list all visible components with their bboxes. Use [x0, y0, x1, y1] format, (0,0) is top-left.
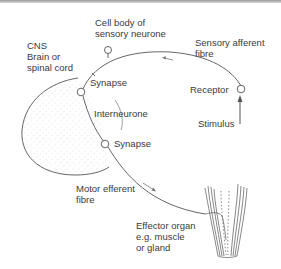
cell-body-node [105, 47, 112, 54]
effector-label: Effector organ [136, 220, 196, 231]
receptor-node [237, 85, 245, 93]
motor-fibre-label: Motor efferent [76, 183, 135, 194]
motor-fibre-label-line2: fibre [76, 194, 94, 205]
cell-body-label: Cell body of [95, 17, 145, 28]
sensory-direction-arrow-icon [162, 56, 173, 60]
synapse-upper-label: Synapse [90, 77, 127, 88]
synapse-lower-label: Synapse [114, 138, 151, 149]
cell-body-label-line2: sensory neurone [95, 28, 166, 39]
cns-region [22, 78, 109, 175]
receptor-label: Receptor [190, 84, 229, 95]
cns-label-line2: Brain or [27, 51, 60, 62]
interneurone-label: Interneurone [94, 108, 148, 119]
stimulus-arrow-icon [238, 95, 243, 124]
sensory-fibre-label-line2: fibre [195, 48, 213, 59]
motor-efferent-fibre [108, 147, 205, 214]
stimulus-label: Stimulus [198, 118, 234, 129]
effector-label-line3: or gland [136, 242, 170, 253]
synapse-lower-node [101, 140, 109, 148]
cns-label: CNS [27, 40, 47, 51]
synapse-upper-node [77, 88, 85, 96]
cns-label-line3: spinal cord [27, 62, 73, 73]
effector-organ-muscle [205, 184, 247, 258]
sensory-fibre-label: Sensory afferent [195, 37, 265, 48]
effector-label-line2: e.g. muscle [136, 231, 185, 242]
